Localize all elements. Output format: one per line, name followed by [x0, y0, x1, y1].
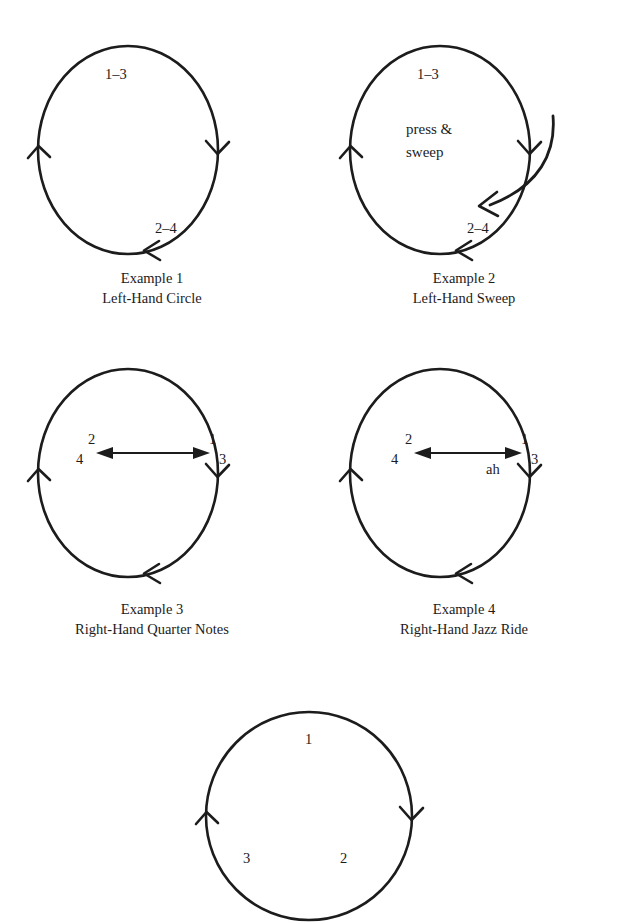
beat-left-lower-4: 4 [391, 451, 399, 467]
caption-line2-2: Left-Hand Sweep [413, 290, 516, 306]
beat-left-upper-4: 2 [405, 431, 412, 447]
arrowhead-right-inner-icon-3 [193, 447, 210, 459]
caption-line2-4: Right-Hand Jazz Ride [400, 621, 528, 637]
arrowhead-left-inner-icon-3 [96, 447, 113, 459]
beat-label-top-2: 1–3 [417, 66, 439, 82]
figure-example-3: 2 4 1 3 Example 3 Right-Hand Quarter Not… [28, 369, 229, 637]
beat-right-lower-4: 3 [531, 451, 538, 467]
arrowhead-right-inner-icon-4 [505, 447, 522, 459]
caption-line1-3: Example 3 [121, 601, 183, 617]
figure-example-4: 2 4 1 3 ah Example 4 Right-Hand Jazz Rid… [340, 369, 541, 637]
beat-right-lower-3: 3 [219, 451, 226, 467]
diagram-page: 1–3 2–4 Example 1 Left-Hand Circle 1–3 2… [0, 0, 624, 924]
beat-label-bottom-left-5: 3 [243, 850, 250, 866]
beat-label-top-1: 1–3 [105, 66, 127, 82]
figure-example-5: 1 2 3 [196, 712, 423, 920]
caption-line1-1: Example 1 [121, 270, 183, 286]
caption-line2-3: Right-Hand Quarter Notes [75, 621, 229, 637]
inner-label-ah: ah [486, 461, 500, 477]
circle-diagrams-canvas: 1–3 2–4 Example 1 Left-Hand Circle 1–3 2… [0, 0, 624, 924]
figure-example-2: 1–3 2–4 press & sweep Example 2 Left-Han… [340, 46, 553, 306]
beat-left-upper-3: 2 [88, 431, 95, 447]
arrowhead-left-inner-icon-4 [414, 447, 431, 459]
caption-line2-1: Left-Hand Circle [102, 290, 201, 306]
motion-circle-1 [38, 46, 218, 254]
beat-label-top-5: 1 [305, 731, 312, 747]
caption-line1-4: Example 4 [433, 601, 496, 617]
figure-example-1: 1–3 2–4 Example 1 Left-Hand Circle [28, 46, 229, 306]
inner-note-line1: press & [406, 121, 453, 137]
motion-circle-4 [350, 369, 530, 577]
beat-label-bottom-right-5: 2 [340, 850, 347, 866]
beat-right-upper-4: 1 [521, 431, 528, 447]
beat-label-bottom-1: 2–4 [155, 220, 178, 236]
beat-left-lower-3: 4 [76, 451, 84, 467]
beat-right-upper-3: 1 [209, 431, 216, 447]
caption-line1-2: Example 2 [433, 270, 495, 286]
motion-circle-3 [38, 369, 218, 577]
inner-note-line2: sweep [406, 144, 444, 160]
beat-label-bottom-2: 2–4 [467, 220, 490, 236]
